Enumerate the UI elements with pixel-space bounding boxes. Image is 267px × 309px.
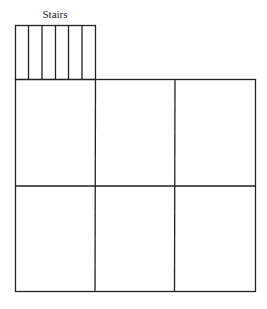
floor-plan (0, 0, 267, 309)
